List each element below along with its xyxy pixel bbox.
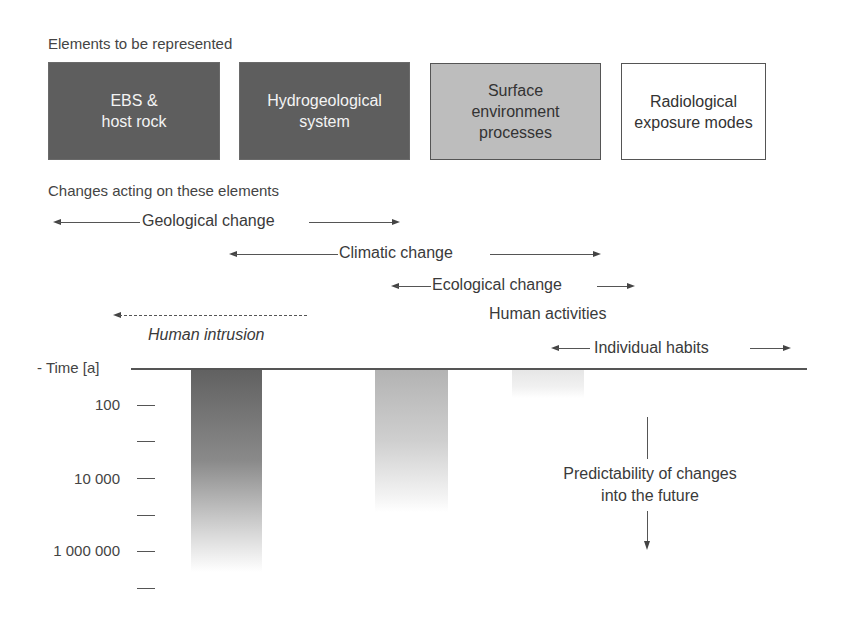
element-box-surface-environment-processes: Surfaceenvironmentprocesses: [430, 63, 601, 160]
predictability-bar-surface: [512, 370, 584, 398]
box-line: Surface: [488, 82, 543, 99]
arrow-right-icon: [392, 219, 400, 225]
predictability-label: Predictability of changes into the futur…: [530, 463, 770, 507]
tick-label-10000: 10 000: [10, 470, 120, 487]
box-line: environment: [471, 103, 559, 120]
arrow-shaft: [58, 222, 140, 223]
arrow-right-icon: [783, 345, 791, 351]
arrow-shaft: [234, 254, 338, 255]
arrow-down-icon: [644, 541, 650, 550]
arrow-shaft: [750, 348, 784, 349]
box-line: host rock: [102, 113, 167, 130]
element-box-radiological-exposure-modes: Radiologicalexposure modes: [621, 63, 766, 160]
climatic-change-label: Climatic change: [339, 244, 453, 262]
element-box-hydrogeological-system: Hydrogeologicalsystem: [239, 62, 410, 160]
human-activities-label: Human activities: [489, 305, 606, 323]
tick-mark: [137, 478, 155, 479]
arrow-shaft: [309, 222, 394, 223]
time-axis-title: - Time [a]: [37, 359, 100, 376]
arrow-right-icon: [627, 283, 635, 289]
tick-label-1000000: 1 000 000: [10, 542, 120, 559]
predictability-line-2: into the future: [601, 487, 699, 504]
box-line: Hydrogeological: [267, 92, 382, 109]
tick-mark: [137, 405, 155, 406]
tick-mark: [137, 551, 155, 552]
box-line: Radiological: [650, 93, 737, 110]
box-line: EBS &: [110, 92, 157, 109]
predictability-bar-climatic: [375, 370, 448, 512]
ecological-change-label: Ecological change: [432, 276, 562, 294]
individual-habits-label: Individual habits: [594, 339, 709, 357]
predictability-arrow-bottom-shaft: [647, 511, 648, 543]
dashed-arrow-shaft: [119, 315, 307, 316]
arrow-shaft: [396, 286, 431, 287]
box-line: exposure modes: [634, 114, 752, 131]
arrow-shaft: [556, 348, 590, 349]
tick-mark: [137, 441, 155, 442]
changes-heading: Changes acting on these elements: [48, 182, 279, 199]
arrow-right-icon: [593, 251, 601, 257]
arrow-shaft: [490, 254, 595, 255]
predictability-arrow-top-shaft: [647, 417, 648, 459]
box-line: processes: [479, 124, 552, 141]
geological-change-label: Geological change: [142, 212, 275, 230]
human-intrusion-label: Human intrusion: [148, 326, 265, 344]
tick-mark: [137, 515, 155, 516]
element-box-ebs-host-rock: EBS &host rock: [48, 62, 220, 160]
box-line: system: [299, 113, 350, 130]
elements-heading: Elements to be represented: [48, 35, 232, 52]
predictability-bar-geological: [191, 370, 262, 572]
predictability-line-1: Predictability of changes: [563, 465, 736, 482]
arrow-shaft: [597, 286, 629, 287]
tick-mark: [137, 588, 155, 589]
tick-label-100: 100: [10, 396, 120, 413]
